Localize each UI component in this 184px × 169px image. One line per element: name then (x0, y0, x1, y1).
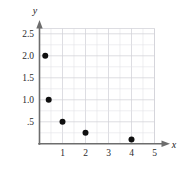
y-tick-label: 2.0 (22, 51, 34, 61)
data-point (83, 130, 89, 136)
data-points-layer (42, 53, 134, 143)
x-tick-label: 2 (83, 148, 88, 158)
grid-layer (40, 29, 155, 144)
x-axis-label: x (171, 139, 177, 150)
y-tick-label: 2.5 (22, 29, 34, 39)
data-point (46, 97, 52, 103)
y-axis-label: y (32, 5, 38, 16)
axes-layer (36, 20, 170, 147)
data-point (60, 119, 66, 125)
plot-canvas: 12345.51.01.52.02.5 x y (0, 0, 184, 169)
y-tick-label: 1.0 (22, 95, 34, 105)
y-axis-arrow (36, 20, 42, 29)
x-tick-label: 1 (60, 148, 65, 158)
data-point (129, 136, 135, 142)
tick-labels-layer: 12345.51.01.52.02.5 (22, 29, 157, 158)
x-tick-label: 5 (152, 148, 157, 158)
scatter-plot-figure: 12345.51.01.52.02.5 x y (0, 0, 184, 169)
x-tick-label: 4 (129, 148, 134, 158)
y-tick-label: .5 (27, 117, 34, 127)
x-tick-label: 3 (106, 148, 111, 158)
x-axis-arrow (162, 141, 171, 147)
y-tick-label: 1.5 (22, 73, 34, 83)
data-point (42, 53, 48, 59)
